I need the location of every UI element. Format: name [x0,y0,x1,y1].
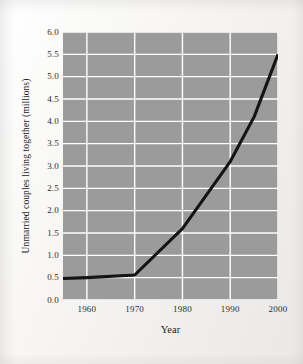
y-axis-tick-label: 4.0 [19,117,59,126]
x-axis-tick-label: 1960 [65,305,109,314]
y-axis-tick-label: 6.0 [19,28,59,37]
x-axis-title: Year [63,324,278,335]
y-axis-tick-label: 5.0 [19,72,59,81]
chart-figure: Unmarried couples living together (milli… [0,0,303,364]
y-axis-tick-label: 4.5 [19,95,59,104]
x-axis-tick-labels: 19601970198019902000 [63,305,278,319]
x-axis-tick-label: 2000 [256,305,300,314]
x-axis-tick-label: 1970 [113,305,157,314]
x-axis-tick-label: 1990 [208,305,252,314]
y-axis-tick-label: 3.5 [19,139,59,148]
y-axis-tick-label: 2.5 [19,184,59,193]
y-axis-tick-label: 3.0 [19,162,59,171]
plot-area [63,32,278,300]
x-axis-tick-label: 1980 [160,305,204,314]
chart-canvas [63,32,278,300]
y-axis-tick-label: 2.0 [19,206,59,215]
y-axis-tick-label: 0.0 [19,296,59,305]
horizontal-gridlines [63,32,278,300]
y-axis-tick-label: 5.5 [19,50,59,59]
y-axis-tick-label: 1.5 [19,229,59,238]
y-axis-tick-label: 0.5 [19,273,59,282]
y-axis-tick-labels: 0.00.51.01.52.02.53.03.54.04.55.05.56.0 [14,32,59,300]
y-axis-tick-label: 1.0 [19,251,59,260]
